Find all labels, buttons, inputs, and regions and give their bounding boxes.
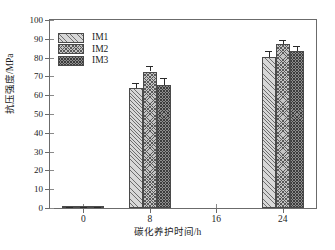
y-axis-tick-inner (50, 152, 54, 153)
y-axis-tick-inner (50, 189, 54, 190)
y-axis-tick-inner (50, 114, 54, 115)
bar (276, 44, 290, 208)
x-axis-tick (283, 208, 284, 213)
x-axis-tick-inner (216, 204, 217, 208)
legend-swatch-im1 (58, 33, 84, 43)
y-axis-tick-label: 20 (34, 166, 43, 175)
legend-entry-im3: IM3 (58, 55, 108, 67)
bar (143, 72, 157, 208)
x-axis-tick (83, 208, 84, 213)
y-axis-tick-inner (50, 133, 54, 134)
y-axis-tick-inner (50, 20, 54, 21)
chart-legend: IM1 IM2 IM3 (58, 32, 108, 67)
legend-swatch-im3 (58, 56, 84, 66)
y-axis-tick-label: 0 (39, 204, 44, 213)
y-axis-tick-label: 30 (34, 147, 43, 156)
y-axis-tick-inner (50, 208, 54, 209)
y-axis-tick-label: 70 (34, 72, 43, 81)
y-axis-tick-inner (50, 58, 54, 59)
x-axis-tick-label: 0 (81, 215, 86, 225)
error-bar-cap (94, 207, 101, 208)
x-axis-tick (150, 208, 151, 213)
bar (290, 51, 304, 208)
error-bar-cap (146, 66, 153, 67)
y-axis-tick-inner (50, 76, 54, 77)
error-bar-cap (279, 40, 286, 41)
legend-label-im1: IM1 (92, 33, 108, 43)
y-axis-tick-inner (50, 95, 54, 96)
error-bar-cap (265, 51, 272, 52)
legend-entry-im1: IM1 (58, 32, 108, 44)
y-axis-tick-label: 60 (34, 91, 43, 100)
error-bar-cap (293, 46, 300, 47)
y-axis-tick-label: 100 (30, 16, 44, 25)
y-axis-tick-label: 10 (34, 185, 43, 194)
x-axis-tick-label: 8 (147, 215, 152, 225)
x-axis-title: 碳化养护时间/h (0, 228, 335, 238)
legend-label-im2: IM2 (92, 45, 108, 55)
chart-canvas: 抗压强度/MPa 0102030405060708090100081624 碳化… (0, 0, 335, 250)
error-bar-cap (66, 207, 73, 208)
legend-swatch-im2 (58, 44, 84, 54)
legend-label-im3: IM3 (92, 56, 108, 66)
y-axis-tick-label: 40 (34, 128, 43, 137)
error-bar-cap (132, 83, 139, 84)
x-axis-tick (216, 208, 217, 213)
y-axis-title: 抗压强度/MPa (6, 53, 16, 114)
y-axis-tick-inner (50, 170, 54, 171)
bar (129, 88, 143, 208)
error-bar-cap (160, 78, 167, 79)
x-axis-tick-label: 24 (278, 215, 288, 225)
x-axis-tick-label: 16 (212, 215, 222, 225)
y-axis-tick-label: 90 (34, 34, 43, 43)
error-bar-stem (164, 78, 165, 85)
error-bar-cap (80, 207, 87, 208)
legend-entry-im2: IM2 (58, 44, 108, 56)
bar (157, 85, 171, 208)
bar (262, 57, 276, 208)
y-axis-tick-label: 50 (34, 110, 43, 119)
y-axis-tick-inner (50, 39, 54, 40)
y-axis-tick-label: 80 (34, 53, 43, 62)
